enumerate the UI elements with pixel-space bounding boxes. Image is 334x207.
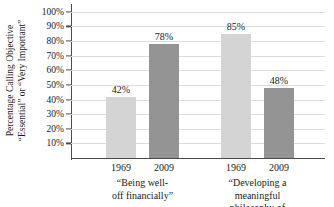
y-axis-tick-label: 30% [47, 109, 64, 119]
y-axis-tick-mark [66, 55, 71, 56]
bar-value-label: 48% [270, 75, 288, 86]
x-axis-year-label: 1969 [111, 162, 131, 174]
x-axis-group-labels: “Being well-off financially”“Developing … [71, 177, 329, 207]
gridline [71, 70, 325, 71]
y-axis-tick-label: 60% [47, 65, 64, 75]
x-axis-group-label-line: “Being well- [112, 177, 173, 190]
gridline [71, 56, 325, 57]
y-axis-tick-label: 20% [47, 124, 64, 134]
y-axis-tick-mark [66, 128, 71, 129]
y-axis-tick-mark [66, 26, 71, 27]
x-axis-group-label-line: off financially” [112, 190, 173, 203]
y-axis-tick-mark [66, 40, 71, 41]
x-axis-line [71, 158, 325, 159]
y-axis-tick-mark [66, 143, 71, 144]
y-axis-title-line-1: Percentage Calling Objective [6, 19, 18, 141]
y-axis-tick-label: 70% [47, 51, 64, 61]
bar-value-label: 42% [112, 84, 130, 95]
y-axis-tick-label: 40% [47, 95, 64, 105]
y-axis-tick-label: 100% [42, 7, 64, 17]
y-axis-tick-label: 90% [47, 21, 64, 31]
y-axis-tick-labels: 100%90%80%70%60%50%40%30%20%10% [32, 0, 68, 160]
bar-value-label: 85% [227, 21, 245, 32]
y-axis-tick-label: 50% [47, 80, 64, 90]
x-axis-year-label: 2009 [154, 162, 174, 174]
bar-chart: Percentage Calling Objective “Essential”… [0, 0, 334, 207]
gridline [71, 12, 325, 13]
x-axis-year-label: 1969 [226, 162, 246, 174]
y-axis-tick-mark [66, 11, 71, 12]
x-axis-year-label: 2009 [269, 162, 289, 174]
x-axis-category-labels: 1969200919692009 [71, 162, 325, 178]
y-axis-tick-label: 10% [47, 138, 64, 148]
bar [221, 34, 251, 158]
plot-area: 42%78%85%48% [71, 6, 325, 158]
gridline [71, 26, 325, 27]
y-axis-tick-mark [66, 70, 71, 71]
gridline [71, 41, 325, 42]
y-axis-tick-mark [66, 84, 71, 85]
y-axis-title-line-2: “Essential” or “Very Important” [17, 19, 29, 141]
bar-value-label: 78% [155, 31, 173, 42]
y-axis-tick-mark [66, 114, 71, 115]
y-axis-title: Percentage Calling Objective “Essential”… [0, 0, 34, 160]
y-axis-tick-label: 80% [47, 36, 64, 46]
x-axis-group-label-line: “Developing a meaningful [222, 177, 294, 202]
bar [106, 97, 136, 158]
x-axis-group-label-line: philosophy of life” [222, 202, 294, 207]
bar [149, 44, 179, 158]
y-axis-tick-mark [66, 99, 71, 100]
bar [264, 88, 294, 158]
x-axis-group-label: “Being well-off financially” [112, 177, 173, 202]
x-axis-group-label: “Developing a meaningfulphilosophy of li… [222, 177, 294, 207]
